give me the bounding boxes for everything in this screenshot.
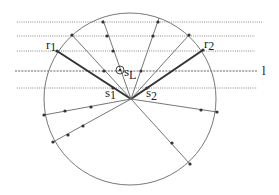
point xyxy=(66,133,69,136)
point xyxy=(89,105,92,108)
point xyxy=(187,33,190,36)
point xyxy=(111,49,114,52)
label-l: l xyxy=(262,63,266,78)
point xyxy=(102,69,105,72)
ray-r1 xyxy=(57,51,131,99)
sL-point xyxy=(119,69,122,72)
ray-upper-right xyxy=(131,35,189,99)
point xyxy=(51,140,54,143)
point xyxy=(70,33,73,36)
label-sL: sL xyxy=(124,64,136,82)
label-r1: r1 xyxy=(46,37,56,54)
ray-top-right xyxy=(131,18,159,99)
ray-lower-right xyxy=(131,99,190,164)
label-s1: s1 xyxy=(105,85,116,102)
label-r2: r2 xyxy=(204,36,214,53)
geometry-diagram: r1 r2 s1 s2 sL l xyxy=(0,0,279,195)
ray-r2 xyxy=(131,50,203,99)
ray-lower-left xyxy=(53,99,131,142)
point xyxy=(63,109,66,112)
point xyxy=(42,113,45,116)
point xyxy=(81,124,84,127)
point xyxy=(188,162,191,165)
horizontal-lines xyxy=(15,22,263,88)
ray-right xyxy=(131,99,217,112)
ray-left xyxy=(44,99,131,115)
point xyxy=(215,110,218,113)
point xyxy=(199,108,202,111)
point xyxy=(101,20,104,23)
dots xyxy=(42,20,218,165)
point xyxy=(105,34,108,37)
rays xyxy=(44,18,217,164)
point xyxy=(151,34,154,37)
point xyxy=(156,20,159,23)
point xyxy=(170,141,173,144)
point xyxy=(139,69,142,72)
